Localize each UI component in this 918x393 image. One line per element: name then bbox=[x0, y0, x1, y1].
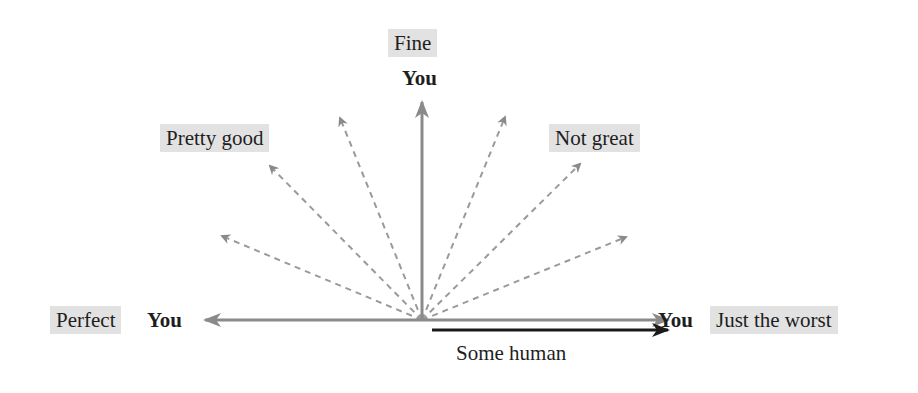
you-label-top: You bbox=[402, 64, 437, 92]
label-not-great-text: Not great bbox=[555, 126, 634, 150]
dashed-arrow-icon bbox=[422, 164, 580, 320]
label-pretty-good-text: Pretty good bbox=[166, 126, 263, 150]
dashed-arrow-icon bbox=[270, 166, 422, 320]
dashed-arrow-icon bbox=[422, 117, 505, 320]
label-just-the-worst-text: Just the worst bbox=[716, 308, 832, 332]
label-perfect: Perfect bbox=[50, 306, 121, 334]
label-fine-text: Fine bbox=[394, 31, 431, 55]
label-fine: Fine bbox=[388, 29, 437, 57]
label-just-the-worst: Just the worst bbox=[710, 306, 838, 334]
arrows-layer bbox=[0, 0, 918, 393]
you-label-left: You bbox=[147, 306, 182, 334]
you-label-right: You bbox=[658, 306, 693, 334]
label-not-great: Not great bbox=[549, 124, 640, 152]
label-pretty-good: Pretty good bbox=[160, 124, 269, 152]
dashed-arrow-icon bbox=[422, 237, 626, 320]
some-human-label: Some human bbox=[456, 339, 566, 367]
label-perfect-text: Perfect bbox=[56, 308, 115, 332]
attitude-diagram: Fine You Pretty good Not great Perfect Y… bbox=[0, 0, 918, 393]
dashed-arrow-icon bbox=[340, 118, 422, 320]
